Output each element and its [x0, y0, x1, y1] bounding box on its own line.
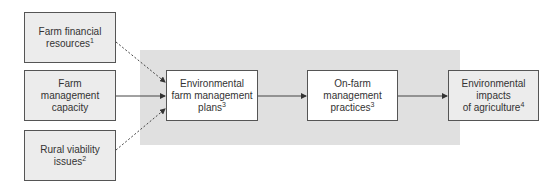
edge-rural-to-plans	[116, 109, 165, 150]
edges-layer	[0, 0, 559, 193]
edge-financial-to-plans	[116, 42, 165, 82]
